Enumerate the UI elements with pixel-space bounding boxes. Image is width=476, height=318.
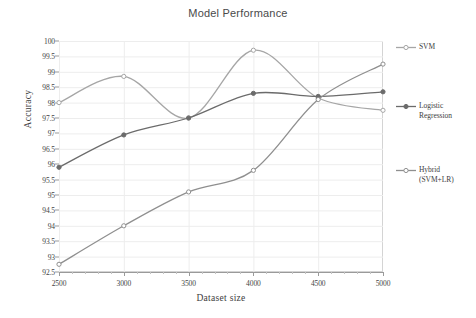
legend-marker-icon [396,166,416,175]
x-axis-minor-tick [357,272,358,274]
y-axis-tick-label: 100 [44,37,55,46]
x-axis-tick-mark [318,272,319,276]
x-axis-minor-tick [176,272,177,274]
x-axis-tick-label: 5000 [376,279,391,288]
plot-area [59,41,383,272]
x-axis-minor-tick [72,272,73,274]
x-axis-minor-tick [305,272,306,274]
y-axis-tick-label: 95 [48,191,55,200]
x-axis-minor-tick [227,272,228,274]
y-axis-tick-label: 97 [48,129,55,138]
legend-item-1[interactable]: SVM [396,42,435,52]
x-axis-minor-tick [150,272,151,274]
x-axis-minor-tick [111,272,112,274]
legend-item-2[interactable]: Logistic Regression [396,101,452,120]
y-axis-tick-label: 94 [48,221,55,230]
y-axis-tick-labels: 92.59393.59494.59595.59696.59797.59898.5… [0,41,59,272]
legend-label: SVM [419,42,435,52]
series-3 [57,62,385,266]
series-layer [59,41,383,272]
x-axis-tick-mark [383,272,384,276]
x-axis-minor-tick [279,272,280,274]
x-axis-tick-mark [59,272,60,276]
x-axis-tick-mark [124,272,125,276]
y-axis-tick-label: 96.5 [42,144,55,153]
x-axis-minor-tick [370,272,371,274]
x-axis-minor-tick [344,272,345,274]
x-axis-tick-mark [253,272,254,276]
x-axis-tick-label: 2500 [52,279,67,288]
x-axis-title: Dataset size [59,293,383,303]
x-axis-minor-tick [266,272,267,274]
y-axis-tick-label: 99.5 [42,52,55,61]
y-axis-tick-label: 92.5 [42,268,55,277]
y-axis-tick-label: 98 [48,98,55,107]
y-axis-tick-label: 93 [48,252,55,261]
y-axis-tick-label: 95.5 [42,175,55,184]
x-axis-tick-label: 3000 [116,279,131,288]
y-axis-tick-label: 99 [48,67,55,76]
x-axis-minor-tick [240,272,241,274]
x-axis-tick-mark [189,272,190,276]
x-axis-tick-label: 4000 [246,279,261,288]
legend-label: Logistic Regression [419,101,452,120]
x-axis-minor-tick [331,272,332,274]
x-axis-tick-label: 4500 [311,279,326,288]
chart-root: Model Performance Accuracy 92.59393.5949… [0,0,476,318]
x-axis-minor-tick [292,272,293,274]
x-axis-minor-tick [163,272,164,274]
x-axis-minor-tick [85,272,86,274]
legend-marker-icon [396,102,416,111]
legend-label: Hybrid (SVM+LR) [419,165,454,184]
legend-item-3[interactable]: Hybrid (SVM+LR) [396,165,454,184]
y-axis-tick-label: 98.5 [42,83,55,92]
chart-title: Model Performance [0,7,476,19]
x-axis-minor-tick [215,272,216,274]
y-axis-tick-label: 97.5 [42,114,55,123]
y-axis-tick-label: 96 [48,160,55,169]
y-axis-tick-label: 94.5 [42,206,55,215]
x-axis-minor-tick [137,272,138,274]
legend-marker-icon [396,43,416,52]
series-1 [57,48,385,120]
x-axis-minor-tick [202,272,203,274]
series-2 [57,90,385,170]
x-axis-tick-label: 3500 [181,279,196,288]
y-axis-tick-label: 93.5 [42,237,55,246]
x-axis-minor-tick [98,272,99,274]
